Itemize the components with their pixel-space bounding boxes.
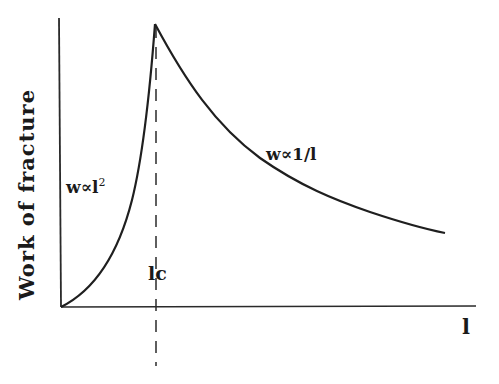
left-branch-exponent: 2 [99,176,106,189]
x-axis [61,306,476,307]
y-axis-label: Work of fracture [14,89,39,300]
y-axis [59,18,61,307]
left-branch-label: w∝l2 [66,176,106,197]
critical-length-label: lc [148,262,167,284]
curve-rising-branch [61,24,155,307]
left-branch-text: w∝l [66,177,99,197]
curve-decaying-branch [155,24,445,233]
right-branch-label: w∝1/l [266,144,317,164]
x-axis-label: l [462,314,470,339]
